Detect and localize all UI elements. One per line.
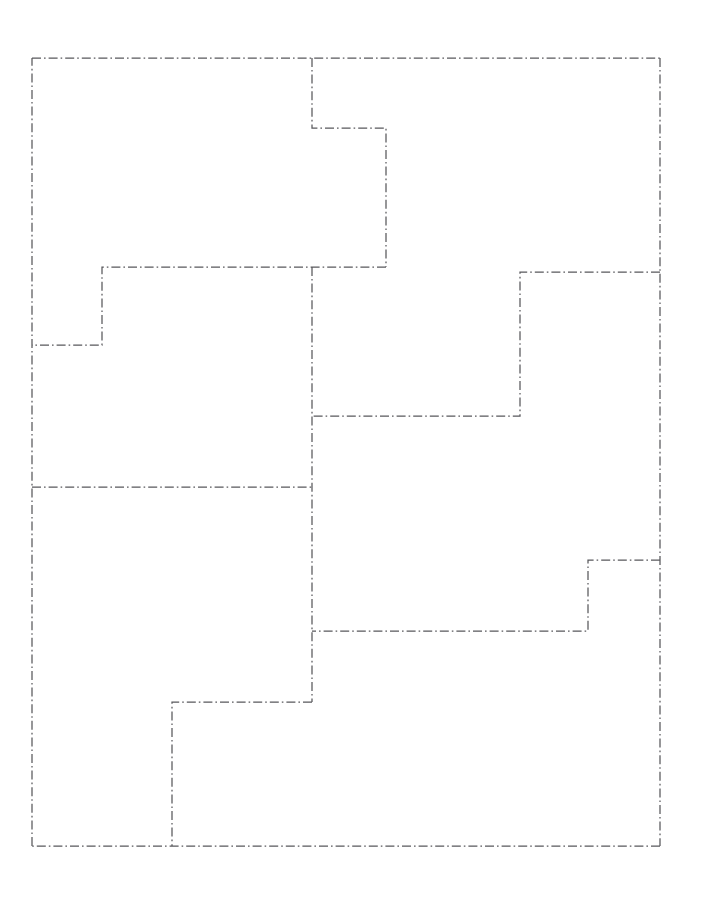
- regions-layer: [32, 58, 660, 846]
- diagram-canvas: [0, 0, 702, 898]
- partition-diagram: [0, 0, 702, 898]
